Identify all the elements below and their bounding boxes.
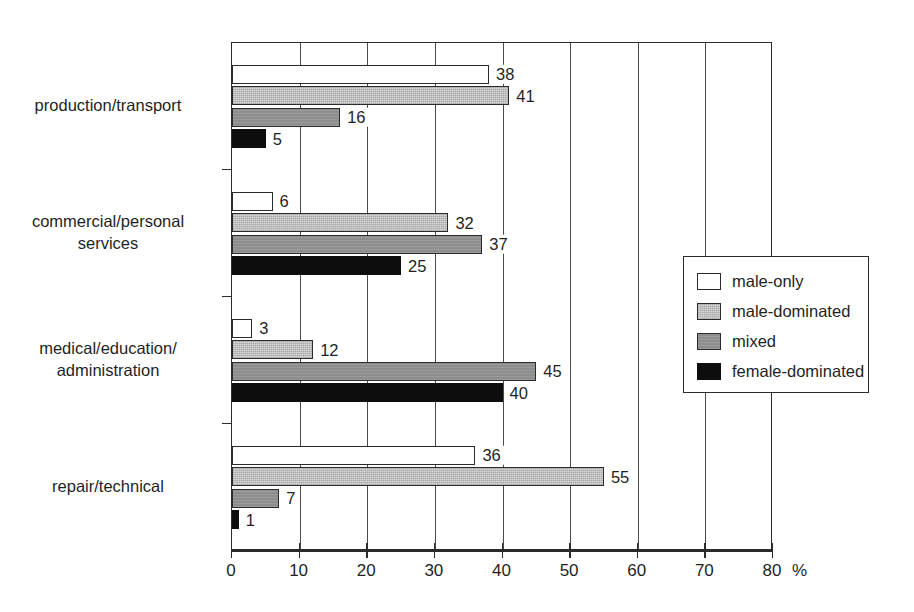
legend-item-male-dominated: male-dominated (697, 296, 868, 326)
bar-value-label: 38 (492, 65, 517, 84)
x-tick-label-50: 50 (560, 562, 579, 579)
bar-value-label: 40 (506, 384, 531, 403)
x-tick-30 (434, 543, 435, 558)
bar-male-dominated (232, 86, 509, 105)
x-tick-label-10: 10 (289, 562, 308, 579)
x-tick-label-0: 0 (226, 562, 235, 579)
x-tick-label-20: 20 (357, 562, 376, 579)
bar-mixed (232, 235, 482, 254)
bar-value-label: 55 (607, 468, 632, 487)
bar-row: 36 (232, 446, 771, 465)
legend-swatch-female-dominated (697, 363, 721, 380)
bar-value-label: 6 (276, 192, 292, 211)
bar-row: 55 (232, 467, 771, 486)
bar-female-dominated (232, 129, 266, 148)
bar-male-only (232, 319, 252, 338)
bar-row: 41 (232, 86, 771, 105)
x-tick-10 (299, 543, 300, 558)
x-axis-unit-label: % (792, 562, 807, 579)
category-label: repair/technical (0, 423, 216, 550)
bar-value-label: 1 (242, 511, 258, 530)
bar-male-dominated (232, 467, 604, 486)
bar-value-label: 7 (282, 489, 298, 508)
x-tick-label-40: 40 (492, 562, 511, 579)
bar-male-dominated (232, 213, 448, 232)
bar-value-label: 3 (255, 319, 271, 338)
bar-female-dominated (232, 510, 239, 529)
bar-value-label: 36 (478, 446, 503, 465)
legend-label: mixed (732, 333, 776, 350)
bar-male-dominated (232, 340, 313, 359)
x-tick-20 (366, 543, 367, 558)
category-axis-labels: production/transportcommercial/personal … (0, 42, 216, 550)
x-tick-label-70: 70 (695, 562, 714, 579)
bar-female-dominated (232, 256, 401, 275)
bar-group: 3841165 (232, 43, 771, 170)
bar-value-label: 32 (451, 214, 476, 233)
bar-row: 38 (232, 65, 771, 84)
bar-male-only (232, 446, 475, 465)
legend-item-male-only: male-only (697, 266, 868, 296)
bar-value-label: 25 (404, 257, 429, 276)
x-tick-label-80: 80 (763, 562, 782, 579)
legend-swatch-male-dominated (697, 303, 721, 320)
bar-row: 6 (232, 192, 771, 211)
category-label: commercial/personal services (0, 169, 216, 296)
x-tick-80 (772, 543, 773, 558)
legend-label: male-dominated (732, 303, 850, 320)
x-tick-40 (502, 543, 503, 558)
category-axis-tick (222, 423, 232, 424)
bar-value-label: 45 (539, 362, 564, 381)
x-tick-label-30: 30 (424, 562, 443, 579)
bar-mixed (232, 108, 340, 127)
bar-mixed (232, 362, 536, 381)
bar-value-label: 5 (269, 130, 285, 149)
bar-male-only (232, 192, 273, 211)
bar-value-label: 41 (512, 87, 537, 106)
category-label: medical/education/ administration (0, 296, 216, 423)
bar-row: 32 (232, 213, 771, 232)
bar-row: 16 (232, 108, 771, 127)
legend-label: male-only (732, 273, 804, 290)
bar-mixed (232, 489, 279, 508)
bar-female-dominated (232, 383, 503, 402)
bar-value-label: 37 (485, 235, 510, 254)
category-axis-tick (222, 169, 232, 170)
category-label: production/transport (0, 42, 216, 169)
bar-row: 1 (232, 510, 771, 529)
bar-row: 5 (232, 129, 771, 148)
x-tick-50 (569, 543, 570, 558)
x-tick-label-60: 60 (627, 562, 646, 579)
legend-item-mixed: mixed (697, 326, 868, 356)
legend-label: female-dominated (732, 363, 864, 380)
legend-swatch-male-only (697, 273, 721, 290)
bar-chart-figure: production/transportcommercial/personal … (0, 0, 914, 612)
bar-row: 37 (232, 235, 771, 254)
bar-male-only (232, 65, 489, 84)
category-axis-tick (222, 296, 232, 297)
bar-value-label: 12 (316, 341, 341, 360)
x-tick-60 (637, 543, 638, 558)
x-tick-0 (231, 543, 232, 558)
bar-value-label: 16 (343, 108, 368, 127)
bar-row: 7 (232, 489, 771, 508)
legend-item-female-dominated: female-dominated (697, 356, 868, 386)
x-tick-70 (704, 543, 705, 558)
legend-swatch-mixed (697, 333, 721, 350)
bar-group: 365571 (232, 424, 771, 551)
legend: male-onlymale-dominatedmixedfemale-domin… (683, 256, 869, 393)
